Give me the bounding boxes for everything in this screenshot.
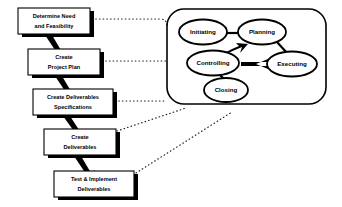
step-5-box[interactable]	[54, 171, 134, 197]
oval-closing[interactable]: Closing	[204, 78, 248, 102]
oval-controlling[interactable]: Controlling	[187, 51, 239, 76]
step-2-label-line-2: Project Plan	[48, 64, 81, 70]
step-1-box[interactable]	[18, 8, 90, 34]
step-3-label-line-1: Create Deliverables	[47, 94, 99, 100]
step-4-box[interactable]	[44, 129, 116, 155]
process-step-5[interactable]: Test & Implement Deliverables	[54, 171, 138, 200]
dotted-step5-container	[136, 112, 232, 173]
oval-initiating[interactable]: Initiating	[179, 20, 227, 45]
link-executing-controlling	[241, 59, 268, 69]
oval-executing-label: Executing	[277, 60, 307, 67]
diagram-svg: Determine Need and Feasibility Create Pr…	[0, 0, 342, 207]
process-step-1[interactable]: Determine Need and Feasibility	[18, 8, 94, 37]
dotted-step4-container	[117, 108, 186, 131]
oval-executing[interactable]: Executing	[267, 52, 317, 77]
step-1-label-line-2: and Feasibility	[35, 23, 75, 29]
step-4-label-line-1: Create	[71, 134, 88, 140]
oval-closing-label: Closing	[215, 86, 238, 93]
oval-planning-label: Planning	[249, 28, 275, 35]
step-3-box[interactable]	[33, 89, 113, 115]
step-5-label-line-2: Deliverables	[78, 186, 111, 192]
step-4-label-line-2: Deliverables	[64, 144, 97, 150]
oval-controlling-label: Controlling	[197, 59, 230, 66]
step-2-box[interactable]	[28, 49, 100, 75]
oval-initiating-label: Initiating	[190, 28, 216, 35]
process-step-4[interactable]: Create Deliverables	[44, 129, 120, 158]
process-step-3[interactable]: Create Deliverables Specifications	[33, 89, 117, 118]
diagram-canvas: Determine Need and Feasibility Create Pr…	[0, 0, 342, 207]
dotted-step1-container	[92, 19, 167, 28]
oval-planning[interactable]: Planning	[238, 20, 286, 45]
step-2-label-line-1: Create	[55, 54, 72, 60]
process-step-2[interactable]: Create Project Plan	[28, 49, 104, 78]
step-1-label-line-1: Determine Need	[33, 13, 76, 19]
step-5-label-line-1: Test & Implement	[71, 176, 117, 182]
step-3-label-line-2: Specifications	[54, 104, 92, 110]
